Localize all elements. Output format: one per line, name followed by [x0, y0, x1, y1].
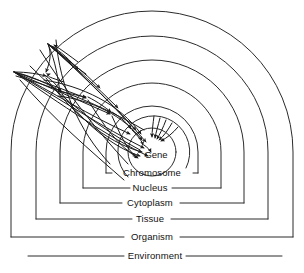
level-label-environment: Environment [128, 250, 183, 261]
flow-arrow [161, 127, 178, 141]
diagram-canvas: Gene Chromosome Nucleus Cytoplasm Tissue… [0, 0, 304, 273]
level-label-organism: Organism [131, 231, 173, 242]
levels-of-organization-diagram: Gene Chromosome Nucleus Cytoplasm Tissue… [0, 0, 304, 273]
flow-arrow [152, 116, 154, 137]
level-label-tissue: Tissue [136, 213, 164, 224]
level-label-cytoplasm: Cytoplasm [127, 197, 173, 208]
level-label-chromosome: Chromosome [123, 167, 181, 178]
level-label-gene: Gene [144, 149, 167, 160]
level-label-nucleus: Nucleus [132, 182, 167, 193]
